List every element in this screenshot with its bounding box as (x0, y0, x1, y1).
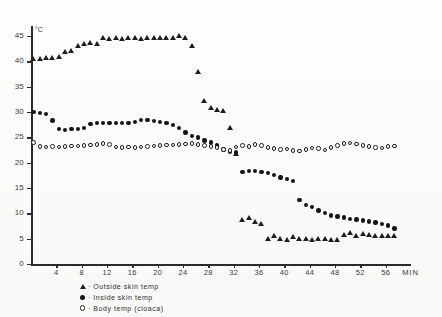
data-point-open-circle (38, 144, 43, 149)
x-axis-name-label: MIN (402, 268, 419, 277)
data-point-triangle (284, 237, 290, 242)
data-point-open-circle (50, 144, 55, 149)
data-point-triangle (87, 40, 93, 45)
data-point-open-circle (95, 142, 100, 147)
data-point-filled-circle (88, 122, 92, 126)
data-point-open-circle (107, 142, 112, 147)
data-point-open-circle (234, 145, 239, 150)
data-point-triangle (258, 221, 264, 226)
data-point-triangle (296, 236, 302, 241)
data-point-triangle (201, 98, 207, 103)
data-point-filled-circle (38, 111, 42, 115)
data-point-filled-circle (164, 121, 168, 125)
data-point-triangle (271, 233, 277, 238)
data-point-open-circle (76, 144, 81, 149)
legend-item-label: Outside skin temp (93, 283, 158, 290)
data-point-open-circle (196, 142, 201, 147)
data-point-filled-circle (69, 127, 73, 131)
legend-item-label: Inside skin temp (93, 294, 152, 301)
triangle-marker-glyph (80, 284, 86, 289)
data-point-open-circle (266, 145, 271, 150)
data-point-triangle (81, 41, 87, 46)
data-point-triangle (328, 237, 334, 242)
data-point-triangle (220, 108, 226, 113)
legend-separator: · (88, 294, 90, 301)
data-point-filled-circle (297, 198, 301, 202)
data-point-open-circle (215, 145, 220, 150)
data-point-open-circle (88, 143, 93, 148)
data-point-filled-circle (82, 126, 86, 130)
data-point-open-circle (158, 143, 163, 148)
triangle-marker (78, 284, 87, 289)
data-point-triangle (144, 35, 150, 40)
data-point-filled-circle (76, 127, 80, 131)
legend-item: ·Outside skin temp (78, 281, 164, 291)
data-point-filled-circle (145, 118, 149, 122)
data-point-filled-circle (177, 126, 181, 130)
legend-item-label: Body temp (cloaca) (93, 305, 163, 312)
x-axis-tick-label: 40 (274, 268, 294, 277)
data-point-filled-circle (152, 119, 156, 123)
data-point-triangle (56, 54, 62, 59)
data-point-open-circle (82, 143, 87, 148)
data-point-filled-circle (348, 217, 352, 221)
data-point-open-circle (348, 141, 353, 146)
data-point-filled-circle (329, 213, 333, 217)
data-point-open-circle (386, 144, 391, 149)
y-axis-tick (27, 61, 31, 62)
data-point-triangle (132, 35, 138, 40)
data-point-triangle (49, 55, 55, 60)
x-axis-tick-label: 56 (376, 268, 396, 277)
data-point-triangle (189, 43, 195, 48)
data-point-triangle (334, 237, 340, 242)
data-point-open-circle (291, 148, 296, 153)
data-point-open-circle (139, 145, 144, 150)
x-axis-tick-label: 4 (46, 268, 66, 277)
data-point-filled-circle (95, 121, 99, 125)
data-point-triangle (62, 49, 68, 54)
data-point-triangle (246, 215, 252, 220)
y-axis-tick (27, 188, 31, 189)
data-point-triangle (43, 55, 49, 60)
legend-item: ·Body temp (cloaca) (78, 303, 164, 313)
data-point-open-circle (335, 143, 340, 148)
data-point-triangle (113, 35, 119, 40)
plot-area: °C MIN 481216202428323640444852560510152… (0, 0, 442, 317)
data-point-filled-circle (196, 135, 200, 139)
data-point-filled-circle (272, 173, 276, 177)
data-point-triangle (353, 233, 359, 238)
data-point-open-circle (310, 146, 315, 151)
data-point-open-circle (361, 143, 366, 148)
data-point-filled-circle (373, 220, 377, 224)
data-point-open-circle (101, 141, 106, 146)
x-axis-tick-label: 48 (325, 268, 345, 277)
x-axis-tick-label: 44 (300, 268, 320, 277)
data-point-filled-circle (50, 118, 54, 122)
data-point-triangle (290, 234, 296, 239)
data-point-open-circle (31, 140, 36, 145)
data-point-filled-circle (342, 215, 346, 219)
y-axis-tick-label: 5 (6, 234, 24, 243)
data-point-open-circle (272, 146, 277, 151)
legend-item: ·Inside skin temp (78, 292, 164, 302)
data-point-filled-circle (107, 121, 111, 125)
filled-circle-marker-glyph (80, 295, 85, 300)
data-point-filled-circle (323, 211, 327, 215)
data-point-triangle (151, 35, 157, 40)
data-point-open-circle (145, 144, 150, 149)
x-axis-tick-label: 8 (72, 268, 92, 277)
data-point-open-circle (202, 143, 207, 148)
data-point-triangle (100, 35, 106, 40)
data-point-triangle (157, 35, 163, 40)
data-point-filled-circle (361, 218, 365, 222)
data-point-triangle (208, 105, 214, 110)
x-axis-tick-label: 16 (122, 268, 142, 277)
data-point-filled-circle (31, 110, 35, 114)
figure-scatter-chart: °C MIN 481216202428323640444852560510152… (0, 0, 442, 317)
data-point-triangle (341, 232, 347, 237)
data-point-open-circle (316, 146, 321, 151)
data-point-triangle (125, 35, 131, 40)
x-axis-tick-label: 52 (350, 268, 370, 277)
data-point-open-circle (126, 145, 131, 150)
data-point-open-circle (367, 144, 372, 149)
